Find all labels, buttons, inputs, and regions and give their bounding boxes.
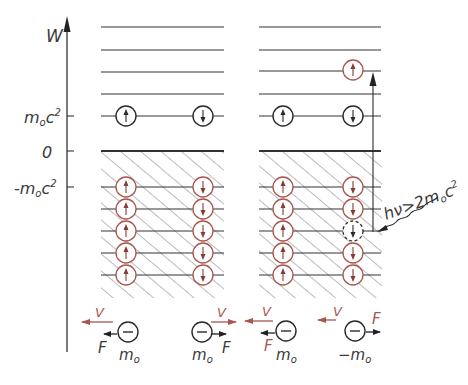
electron-spin-up-icon: [273, 106, 293, 126]
svg-text:F: F: [222, 339, 231, 357]
svg-text:V: V: [333, 304, 343, 319]
svg-text:mo: mo: [192, 346, 213, 365]
negative-charge-icon: [345, 321, 365, 341]
photon-annotation: hν>2moc2: [377, 178, 462, 232]
svg-text:V: V: [95, 305, 105, 320]
hole-icon: [343, 221, 363, 241]
axis-label-w: W: [46, 26, 64, 46]
svg-text:F: F: [98, 339, 107, 357]
svg-text:F: F: [264, 337, 273, 355]
electron-spin-down-icon: [193, 106, 213, 126]
negative-charge-icon: [192, 322, 212, 342]
particle-3: V F mo: [245, 304, 297, 365]
energy-axis: W moc2 0 -moc2: [14, 16, 74, 352]
axis-arrow-icon: [64, 16, 71, 32]
dirac-sea-diagram: W moc2 0 -moc2: [0, 0, 468, 385]
particle-4: V F −mo: [318, 304, 381, 365]
svg-text:F: F: [372, 310, 381, 328]
svg-text:moc2: moc2: [24, 107, 61, 128]
svg-text:−mo: −mo: [338, 346, 371, 365]
excited-electron-icon: [343, 60, 363, 80]
svg-text:-moc2: -moc2: [14, 178, 57, 199]
tick-label-zero: 0: [42, 143, 52, 162]
tick-label-neg-m0c2: -moc2: [14, 178, 57, 199]
particle-2: V F mo: [192, 305, 236, 365]
negative-charge-icon: [118, 322, 138, 342]
svg-text:mo: mo: [276, 346, 297, 365]
electron-spin-down-icon: [343, 106, 363, 126]
arrow-up-icon: [370, 72, 377, 86]
force-velocity-particles: V F mo V F mo V F mo V: [82, 304, 381, 365]
electron-spin-up-icon: [116, 106, 136, 126]
svg-text:mo: mo: [119, 346, 140, 365]
svg-text:V: V: [217, 305, 227, 320]
photon-energy-label: hν>2moc2: [381, 178, 463, 225]
svg-text:V: V: [262, 304, 272, 319]
particle-1: V F mo: [82, 305, 140, 365]
negative-charge-icon: [276, 321, 296, 341]
left-panel: [101, 27, 224, 298]
right-panel: hν>2moc2: [259, 27, 462, 298]
tick-label-m0c2: moc2: [24, 107, 61, 128]
